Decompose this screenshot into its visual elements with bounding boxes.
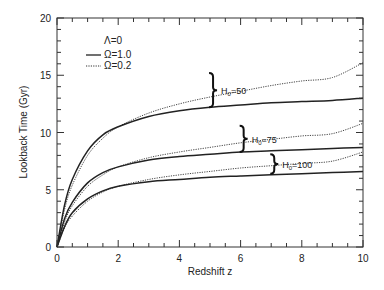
x-tick-label: 0 bbox=[54, 253, 60, 264]
brace-label: H0=100 bbox=[282, 160, 312, 171]
legend-entry-omega-0.2: Ω=0.2 bbox=[104, 60, 132, 71]
y-tick-label: 10 bbox=[40, 128, 52, 139]
x-tick-label: 6 bbox=[238, 253, 244, 264]
legend-title: Λ=0 bbox=[104, 35, 123, 46]
x-tick-label: 10 bbox=[357, 253, 369, 264]
brace-label: H0=50 bbox=[221, 86, 246, 97]
legend: Λ=0 Ω=1.0 Ω=0.2 bbox=[86, 35, 132, 71]
series-line bbox=[57, 123, 363, 247]
curves bbox=[57, 63, 363, 247]
brace-icon bbox=[209, 73, 217, 107]
y-tick-label: 15 bbox=[40, 70, 52, 81]
axis-ticks: 024681005101520 bbox=[40, 13, 369, 264]
plot-frame bbox=[57, 18, 363, 247]
x-axis-label: Redshift z bbox=[188, 266, 232, 277]
y-axis-label: Lookback Time (Gyr) bbox=[18, 86, 29, 179]
brace-icon bbox=[240, 126, 248, 152]
y-tick-label: 5 bbox=[45, 185, 51, 196]
x-tick-label: 2 bbox=[115, 253, 121, 264]
lookback-time-chart: 024681005101520 H0=50H0=75H0=100 Λ=0 Ω=1… bbox=[0, 0, 384, 290]
legend-entry-omega-1: Ω=1.0 bbox=[104, 49, 132, 60]
y-tick-label: 20 bbox=[40, 13, 52, 24]
series-line bbox=[57, 152, 363, 247]
brace-icon bbox=[270, 154, 278, 173]
annotations: H0=50H0=75H0=100 bbox=[209, 73, 312, 174]
brace-label: H0=75 bbox=[252, 135, 277, 146]
y-tick-label: 0 bbox=[45, 242, 51, 253]
x-tick-label: 4 bbox=[177, 253, 183, 264]
x-tick-label: 8 bbox=[299, 253, 305, 264]
series-line bbox=[57, 171, 363, 247]
